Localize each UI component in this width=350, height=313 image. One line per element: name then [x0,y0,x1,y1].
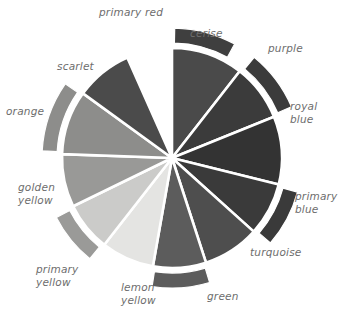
wheel-label-primary-red: primary red [99,6,187,19]
wheel-label-golden-yellow: golden yellow [18,181,78,206]
wheel-label-orange: orange [6,105,66,118]
color-wheel-figure: primary redcerisepurpleroyal blueprimary… [0,0,350,313]
wheel-label-green: green [207,290,257,303]
wheel-label-royal-blue: royal blue [290,100,346,125]
color-wheel-segments [62,48,282,268]
wheel-label-turquoise: turquoise [250,246,320,259]
wheel-label-scarlet: scarlet [57,60,117,73]
wheel-label-lemon-yellow: lemon yellow [121,281,177,306]
wheel-label-cerise: cerise [190,27,250,40]
wheel-label-primary-blue: primary blue [295,190,350,215]
wheel-label-primary-yellow: primary yellow [36,263,102,288]
wheel-label-purple: purple [268,42,330,55]
